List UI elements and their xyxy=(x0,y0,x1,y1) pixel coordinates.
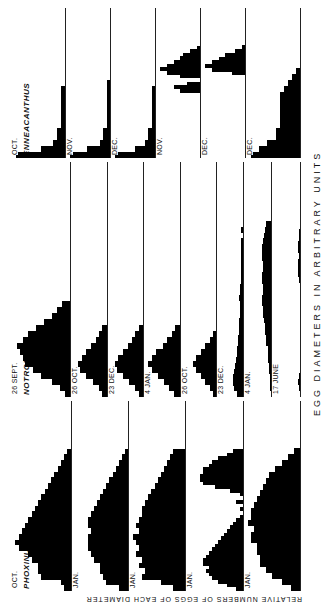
histogram-bar xyxy=(193,361,217,367)
histogram-bar xyxy=(174,60,200,64)
histogram-bar xyxy=(263,484,300,490)
panel-date-label: 23 DEC. xyxy=(108,365,115,394)
histogram-bar xyxy=(61,580,71,586)
histogram-bar xyxy=(215,485,243,489)
histogram-bar xyxy=(212,460,243,464)
histogram-bar xyxy=(36,325,70,331)
histogram-bar xyxy=(235,49,245,53)
histogram-bar xyxy=(70,152,110,158)
histogram-bar xyxy=(78,361,106,367)
histogram-bar xyxy=(15,540,70,546)
histogram-bar xyxy=(161,472,186,478)
histogram-bar xyxy=(145,500,185,506)
histogram-bar xyxy=(99,385,107,391)
histogram-bar xyxy=(80,367,107,373)
histogram-bar xyxy=(23,355,71,361)
histogram-bar xyxy=(86,373,106,379)
histogram-bar xyxy=(206,569,243,573)
histogram-bar xyxy=(88,546,128,552)
histogram-bar xyxy=(145,140,155,146)
histogram-bar xyxy=(209,566,243,570)
histogram-bar xyxy=(299,235,300,241)
histogram-bar xyxy=(33,367,70,373)
histogram-bar xyxy=(164,379,180,385)
histogram-bars xyxy=(245,68,300,158)
panel-date-label: JAN. xyxy=(129,572,136,588)
histogram-bar xyxy=(57,134,65,140)
histogram-bar xyxy=(183,53,200,57)
histogram-panel: 17 JUNE xyxy=(271,162,301,397)
histogram-bar xyxy=(142,557,185,563)
histogram-bar xyxy=(25,523,71,529)
histogram-bar xyxy=(298,259,300,265)
histogram-bar xyxy=(292,74,300,80)
histogram-panel: 23 DEC. xyxy=(107,162,145,397)
histogram-bar xyxy=(212,68,245,72)
histogram-bar xyxy=(262,301,272,307)
histogram-bar xyxy=(129,379,143,385)
histogram-bar xyxy=(94,557,128,563)
histogram-bar xyxy=(119,585,128,591)
histogram-bar xyxy=(158,477,186,483)
histogram-bar xyxy=(262,244,272,250)
histogram-bar xyxy=(136,551,185,557)
histogram-bar xyxy=(203,558,243,562)
histogram-bar xyxy=(257,544,300,550)
histogram-bar xyxy=(209,551,243,555)
histogram-bar xyxy=(167,337,180,343)
histogram-bar xyxy=(219,57,245,61)
histogram-bar xyxy=(205,64,245,68)
histogram-panel: NOV. xyxy=(65,8,111,158)
histogram-bar xyxy=(291,585,300,591)
histogram-bar xyxy=(155,483,186,489)
histogram-panel: 26 SEPT. xyxy=(10,162,71,397)
histogram-bar xyxy=(174,86,200,90)
histogram-bar xyxy=(262,278,272,284)
panel-date-label: JAN. xyxy=(186,572,193,588)
histogram-bar xyxy=(99,331,107,337)
histogram-bar xyxy=(148,134,155,140)
histogram-bar xyxy=(148,361,179,367)
histogram-bar xyxy=(158,373,180,379)
histogram-bar xyxy=(203,482,243,486)
histogram-bar xyxy=(51,477,71,483)
histogram-bar xyxy=(164,466,186,472)
histogram-bar xyxy=(118,355,143,361)
histogram-bar xyxy=(57,307,70,313)
histogram-panel: 26 OCT. xyxy=(180,162,218,397)
histogram-bar xyxy=(133,534,185,540)
histogram-bar xyxy=(163,343,180,349)
histogram-bar xyxy=(280,110,300,116)
histogram-bar xyxy=(170,455,185,461)
histogram-bar xyxy=(106,580,128,586)
histogram-bar xyxy=(209,464,243,468)
histogram-panel: 4 JAN. xyxy=(243,162,273,397)
histogram-bar xyxy=(109,477,127,483)
histogram-bar xyxy=(206,555,243,559)
histogram-bar xyxy=(167,71,200,75)
histogram-bar xyxy=(233,522,242,526)
histogram-panel: JAN. xyxy=(243,401,301,591)
histogram-bar xyxy=(298,247,300,253)
histogram-bar xyxy=(135,331,143,337)
histogram-bar xyxy=(139,546,185,552)
panel-date-label: OCT. xyxy=(11,138,18,155)
histogram-bar xyxy=(284,86,300,92)
histogram-bars xyxy=(71,449,128,591)
panel-date-label: DEC. xyxy=(246,137,253,155)
histogram-bar xyxy=(180,75,200,79)
histogram-bar xyxy=(96,337,107,343)
histogram-bar xyxy=(117,367,144,373)
histogram-bar xyxy=(17,343,70,349)
histogram-bar xyxy=(298,271,300,277)
histogram-bar xyxy=(232,72,245,76)
histogram-panel: DEC. xyxy=(110,8,156,158)
histogram-bar xyxy=(263,289,272,295)
histogram-bar xyxy=(266,567,300,573)
histogram-bar xyxy=(263,306,272,312)
histogram-bar xyxy=(25,361,70,367)
histogram-bar xyxy=(57,128,65,134)
figure: RELATIVE NUMBERS OF EGGS OF EACH DIAMETE… xyxy=(0,0,335,611)
histogram-bar xyxy=(88,534,128,540)
histogram-bar xyxy=(139,563,185,569)
